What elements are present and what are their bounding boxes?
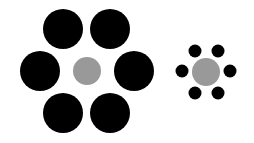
- small-inducer-circle: [176, 65, 189, 78]
- large-inducer-circle: [90, 93, 130, 133]
- small-inducer-circle: [189, 45, 202, 58]
- small-inducer-circle: [189, 87, 202, 100]
- large-inducer-circle: [114, 51, 154, 91]
- small-inducer-circle: [224, 65, 237, 78]
- small-inducer-circle: [212, 87, 225, 100]
- target-circle-left: [73, 57, 101, 85]
- small-inducer-circle: [212, 45, 225, 58]
- ebbinghaus-illusion: [0, 0, 254, 143]
- large-inducer-circle: [43, 93, 83, 133]
- large-inducer-circle: [43, 9, 83, 49]
- large-inducer-circle: [90, 9, 130, 49]
- target-circle-right: [192, 58, 220, 86]
- large-inducer-circle: [20, 51, 60, 91]
